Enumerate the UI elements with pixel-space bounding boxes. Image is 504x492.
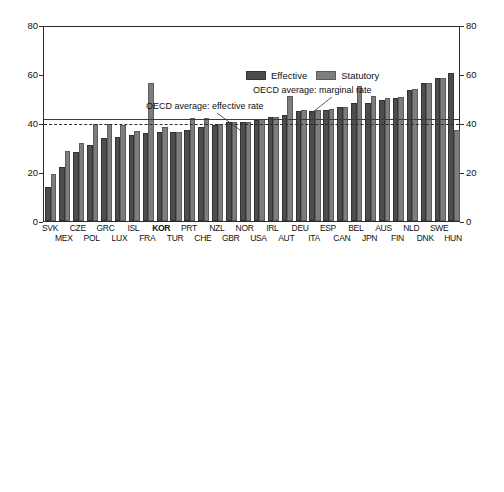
x-tick-label-dnk: DNK [411, 233, 439, 243]
x-tick-label-nor: NOR [231, 223, 259, 233]
x-tick-label-deu: DEU [286, 223, 314, 233]
y-tick-mark [460, 173, 464, 174]
y-tick-label: 80 [466, 20, 492, 31]
x-tick-label-kor: KOR [147, 223, 175, 233]
x-tick-label-can: CAN [328, 233, 356, 243]
bar-isl-statutory [134, 131, 140, 221]
oecd-marginal-rate-line [44, 119, 459, 120]
oecd-effective-rate-line [44, 124, 459, 125]
bar-usa-statutory [259, 119, 265, 221]
x-tick-label-prt: PRT [175, 223, 203, 233]
x-tick-label-bel: BEL [342, 223, 370, 233]
x-tick-label-fin: FIN [383, 233, 411, 243]
y-tick-label: 40 [12, 118, 38, 129]
x-tick-label-jpn: JPN [356, 233, 384, 243]
annotation-marginal-rate: OECD average: marginal rate [253, 85, 372, 95]
x-tick-label-lux: LUX [105, 233, 133, 243]
bar-swe-statutory [440, 78, 446, 221]
y-tick-mark [39, 75, 43, 76]
bar-esp-statutory [329, 109, 335, 221]
x-tick-label-grc: GRC [92, 223, 120, 233]
panel-a-plot-area [43, 26, 460, 222]
annotation-effective-rate: OECD average: effective rate [146, 101, 263, 111]
x-tick-label-swe: SWE [425, 223, 453, 233]
bar-fin-statutory [398, 97, 404, 221]
x-tick-label-aut: AUT [272, 233, 300, 243]
bar-pol-statutory [93, 124, 99, 222]
x-tick-label-hun: HUN [439, 233, 467, 243]
x-tick-label-pol: POL [78, 233, 106, 243]
x-tick-label-tur: TUR [161, 233, 189, 243]
legend-item-statutory: Statutory [316, 70, 379, 81]
x-tick-label-aus: AUS [370, 223, 398, 233]
bar-cze-statutory [79, 143, 85, 221]
bar-aus-statutory [385, 98, 391, 221]
legend-swatch-effective [246, 71, 266, 80]
y-tick-label: 20 [466, 167, 492, 178]
legend-swatch-statutory [316, 71, 336, 80]
y-tick-mark [39, 124, 43, 125]
x-tick-label-irl: IRL [258, 223, 286, 233]
bar-svk-statutory [51, 174, 57, 221]
y-tick-label: 40 [466, 118, 492, 129]
y-tick-label: 20 [12, 167, 38, 178]
bar-nld-statutory [412, 89, 418, 221]
legend-label-statutory: Statutory [341, 70, 379, 81]
panel-a: A. Top effective and statutory marginal … [0, 0, 504, 250]
y-tick-label: 0 [466, 216, 492, 227]
bar-dnk-statutory [426, 83, 432, 221]
x-tick-label-svk: SVK [36, 223, 64, 233]
panel-a-legend: Effective Statutory [246, 70, 379, 81]
x-tick-label-nld: NLD [397, 223, 425, 233]
bar-kor-statutory [162, 127, 168, 221]
x-tick-label-mex: MEX [50, 233, 78, 243]
y-tick-label: 60 [12, 69, 38, 80]
y-tick-label: 80 [12, 20, 38, 31]
bar-irl-statutory [273, 117, 279, 221]
bar-nor-statutory [246, 122, 252, 221]
x-tick-label-nzl: NZL [203, 223, 231, 233]
y-tick-mark [460, 222, 464, 223]
y-tick-mark [460, 26, 464, 27]
bar-tur-statutory [176, 132, 182, 221]
y-tick-mark [460, 75, 464, 76]
panel-b: B. Income threshold for top statutory ra… [0, 250, 504, 492]
panel-a-x-labels: SVKMEXCZEPOLGRCLUXISLFRAKORTURPRTCHENZLG… [43, 223, 460, 251]
bar-jpn-statutory [371, 96, 377, 221]
x-tick-label-ita: ITA [300, 233, 328, 243]
legend-item-effective: Effective [246, 70, 307, 81]
x-tick-label-gbr: GBR [217, 233, 245, 243]
bar-lux-statutory [120, 125, 126, 221]
bar-nzl-statutory [218, 124, 224, 222]
x-tick-label-esp: ESP [314, 223, 342, 233]
y-tick-mark [39, 26, 43, 27]
x-tick-label-fra: FRA [133, 233, 161, 243]
bar-gbr-statutory [232, 122, 238, 221]
bar-prt-statutory [190, 118, 196, 221]
bar-bel-statutory [357, 86, 363, 221]
x-tick-label-isl: ISL [119, 223, 147, 233]
bar-mex-statutory [65, 151, 71, 221]
bar-hun-statutory [454, 130, 460, 221]
bar-grc-statutory [107, 124, 113, 222]
bar-deu-statutory [301, 110, 307, 221]
x-tick-label-usa: USA [244, 233, 272, 243]
y-tick-mark [460, 124, 464, 125]
legend-label-effective: Effective [271, 70, 307, 81]
y-tick-label: 60 [466, 69, 492, 80]
oecd-tax-rates-figure: A. Top effective and statutory marginal … [0, 0, 504, 492]
y-tick-mark [39, 173, 43, 174]
bar-ita-statutory [315, 110, 321, 221]
x-tick-label-cze: CZE [64, 223, 92, 233]
bar-che-statutory [204, 118, 210, 221]
bar-aut-statutory [287, 96, 293, 221]
x-tick-label-che: CHE [189, 233, 217, 243]
y-tick-label: 0 [12, 216, 38, 227]
